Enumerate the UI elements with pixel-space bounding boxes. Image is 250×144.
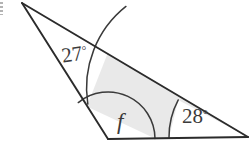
right-degree-symbol: ° bbox=[203, 107, 208, 121]
unknown-angle-label: f bbox=[117, 110, 123, 133]
geometry-figure: 27° f 28° bbox=[0, 0, 250, 144]
right-angle-label: 28° bbox=[182, 106, 208, 127]
apex-angle-label: 27° bbox=[60, 42, 89, 67]
triangle-diagram-svg bbox=[0, 0, 250, 144]
right-angle-value: 28 bbox=[182, 104, 203, 128]
